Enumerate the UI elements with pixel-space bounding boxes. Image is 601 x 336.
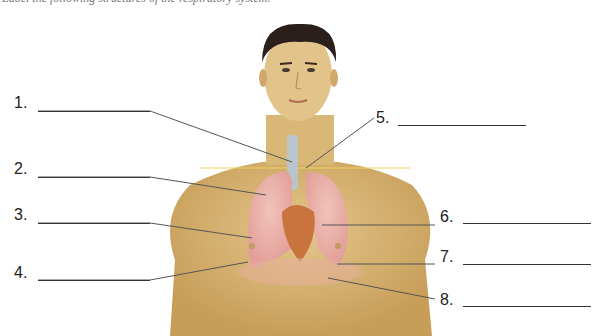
- label-number-5: 5.: [376, 110, 389, 126]
- neck: [266, 115, 334, 165]
- label-number-6: 6.: [440, 209, 453, 225]
- label-number-1: 1.: [14, 95, 27, 111]
- answer-blank-4[interactable]: [38, 280, 150, 281]
- label-number-4: 4.: [14, 265, 27, 281]
- answer-blank-3[interactable]: [38, 223, 150, 224]
- answer-blank-8[interactable]: [463, 306, 591, 307]
- answer-blank-1[interactable]: [38, 111, 150, 112]
- label-number-2: 2.: [14, 161, 27, 177]
- label-number-8: 8.: [440, 292, 453, 308]
- answer-blank-7[interactable]: [463, 264, 591, 265]
- torso-illustration: [0, 0, 601, 336]
- answer-blank-5[interactable]: [398, 125, 526, 126]
- answer-blank-2[interactable]: [38, 177, 150, 178]
- label-number-3: 3.: [14, 207, 27, 223]
- label-number-7: 7.: [440, 249, 453, 265]
- answer-blank-6[interactable]: [463, 223, 591, 224]
